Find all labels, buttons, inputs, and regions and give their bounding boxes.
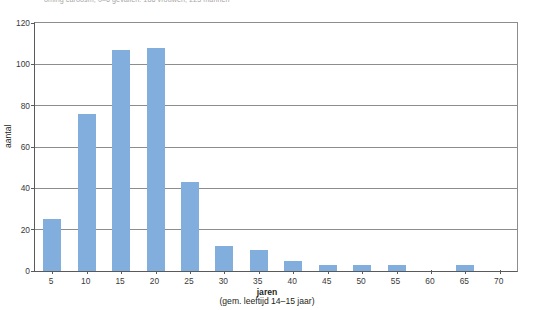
x-tick-70 <box>500 270 501 274</box>
gridline-y-20 <box>35 229 517 230</box>
x-tick-60 <box>431 270 432 274</box>
bar-15 <box>112 50 130 271</box>
y-tick-label: 40 <box>21 183 30 193</box>
x-tick-label: 45 <box>322 276 331 286</box>
gridline-y-80 <box>35 105 517 106</box>
y-tick-20 <box>31 229 35 230</box>
y-tick-120 <box>31 23 35 24</box>
x-tick-label: 25 <box>184 276 193 286</box>
bar-40 <box>284 261 302 271</box>
x-tick-label: 50 <box>356 276 365 286</box>
y-tick-label: 120 <box>16 18 30 28</box>
bar-25 <box>181 182 199 271</box>
y-tick-label: 0 <box>25 266 30 276</box>
x-tick-label: 60 <box>425 276 434 286</box>
y-tick-60 <box>31 147 35 148</box>
x-tick-label: 20 <box>150 276 159 286</box>
plot-area: 020406080100120 <box>34 22 518 272</box>
bar-20 <box>147 48 165 271</box>
x-axis-subtitle: (gem. leeftijd 14–15 jaar) <box>0 296 534 306</box>
y-tick-100 <box>31 64 35 65</box>
bar-35 <box>250 250 268 271</box>
gridline-y-40 <box>35 188 517 189</box>
bar-50 <box>353 265 371 271</box>
x-tick-label: 35 <box>253 276 262 286</box>
bar-65 <box>456 265 474 271</box>
gridline-y-100 <box>35 64 517 65</box>
bar-55 <box>388 265 406 271</box>
x-tick-label: 10 <box>81 276 90 286</box>
x-tick-label: 15 <box>115 276 124 286</box>
y-tick-0 <box>31 271 35 272</box>
bar-45 <box>319 265 337 271</box>
y-tick-label: 100 <box>16 59 30 69</box>
gridline-y-60 <box>35 147 517 148</box>
y-tick-label: 80 <box>21 101 30 111</box>
x-tick-label: 40 <box>288 276 297 286</box>
bar-30 <box>215 246 233 271</box>
x-tick-label: 30 <box>219 276 228 286</box>
bar-chart: aantal 020406080100120 jaren (gem. leeft… <box>0 0 534 310</box>
y-axis-title: aantal <box>3 125 13 148</box>
bar-10 <box>78 114 96 271</box>
y-tick-80 <box>31 105 35 106</box>
y-tick-label: 60 <box>21 142 30 152</box>
x-tick-label: 70 <box>494 276 503 286</box>
y-tick-40 <box>31 188 35 189</box>
x-tick-label: 55 <box>391 276 400 286</box>
bar-5 <box>43 219 61 271</box>
x-tick-label: 65 <box>460 276 469 286</box>
y-tick-label: 20 <box>21 225 30 235</box>
x-tick-label: 5 <box>49 276 54 286</box>
